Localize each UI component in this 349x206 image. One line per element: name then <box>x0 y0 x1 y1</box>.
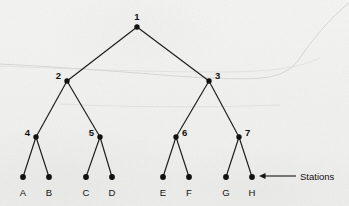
node-dot-icon <box>236 134 241 139</box>
tree-annotations: Stations <box>259 171 335 182</box>
node-dot-icon <box>64 78 69 83</box>
station-node-E[interactable]: E <box>160 174 166 198</box>
station-label-E: E <box>160 187 166 198</box>
tree-edge-6-E <box>163 137 176 177</box>
node-dot-icon <box>249 174 255 180</box>
station-node-A[interactable]: A <box>20 174 27 198</box>
tree-diagram-figure: 1234567ABCDEFGH Stations <box>0 0 349 206</box>
tree-edge-7-H <box>239 137 252 177</box>
arrow-head-icon <box>259 173 266 179</box>
node-dot-icon <box>97 134 102 139</box>
annotation-stations-callout: Stations <box>259 171 335 182</box>
node-dot-icon <box>134 24 139 29</box>
station-node-H[interactable]: H <box>249 174 256 198</box>
tree-edge-3-6 <box>176 81 209 137</box>
node-dot-icon <box>186 174 192 180</box>
station-node-F[interactable]: F <box>186 174 192 198</box>
tree-node-7[interactable]: 7 <box>236 127 250 140</box>
node-dot-icon <box>83 174 89 180</box>
tree-edge-2-4 <box>36 81 67 137</box>
stations-callout-label: Stations <box>300 171 335 182</box>
tree-nodes: 1234567ABCDEFGH <box>20 11 256 198</box>
tree-edge-1-3 <box>137 27 209 81</box>
station-node-D[interactable]: D <box>109 174 116 198</box>
node-dot-icon <box>173 134 178 139</box>
tree-edge-1-2 <box>67 27 137 81</box>
station-label-B: B <box>46 187 52 198</box>
tree-edge-4-B <box>36 137 49 177</box>
node-dot-icon <box>160 174 166 180</box>
tree-node-1[interactable]: 1 <box>134 11 140 30</box>
node-dot-icon <box>206 78 211 83</box>
node-dot-icon <box>20 174 26 180</box>
tree-edge-5-C <box>86 137 100 177</box>
tree-edge-2-5 <box>67 81 100 137</box>
station-node-C[interactable]: C <box>83 174 90 198</box>
tree-edge-6-F <box>176 137 189 177</box>
station-node-G[interactable]: G <box>222 174 229 198</box>
station-label-D: D <box>109 187 116 198</box>
tree-edge-4-A <box>23 137 36 177</box>
tree-edge-7-G <box>226 137 239 177</box>
tree-edge-3-7 <box>209 81 239 137</box>
node-label-5: 5 <box>89 127 95 138</box>
node-label-2: 2 <box>56 70 61 81</box>
node-label-6: 6 <box>182 127 187 138</box>
node-label-7: 7 <box>245 127 250 138</box>
node-dot-icon <box>33 134 38 139</box>
station-label-F: F <box>186 187 192 198</box>
node-dot-icon <box>109 174 115 180</box>
station-label-H: H <box>249 187 256 198</box>
tree-edges <box>23 27 252 177</box>
tree-edge-5-D <box>100 137 112 177</box>
tree-node-4[interactable]: 4 <box>25 127 39 140</box>
node-label-1: 1 <box>134 11 140 22</box>
station-label-A: A <box>20 187 27 198</box>
station-label-G: G <box>222 187 229 198</box>
node-dot-icon <box>223 174 229 180</box>
node-label-4: 4 <box>25 127 31 138</box>
node-dot-icon <box>46 174 52 180</box>
station-label-C: C <box>83 187 90 198</box>
station-node-B[interactable]: B <box>46 174 52 198</box>
tree-node-2[interactable]: 2 <box>56 70 70 84</box>
node-label-3: 3 <box>215 70 220 81</box>
tree-canvas: 1234567ABCDEFGH Stations <box>0 0 349 206</box>
